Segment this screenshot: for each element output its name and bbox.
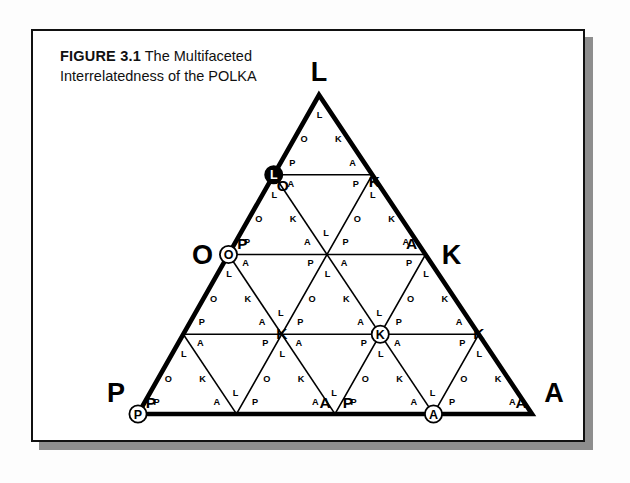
cell-letter-L: L xyxy=(325,269,331,279)
circled-marker-K[interactable]: K xyxy=(372,326,389,343)
emphasis-letter-A: A xyxy=(406,235,417,252)
cell-letter-K: K xyxy=(442,294,449,304)
cell-letter-O: O xyxy=(263,374,270,384)
figure-card: FIGURE 3.1 The Multifaceted Interrelated… xyxy=(31,29,585,442)
polka-triangle-diagram: LPAOKLPAOKLPAOKLPAOKLPAOKLPAOKLPAOKLPAOK… xyxy=(33,31,587,444)
cell-letter-L: L xyxy=(423,269,429,279)
cell-letter-P: P xyxy=(262,338,268,348)
cell-letter-K: K xyxy=(290,214,297,224)
grid-left-diagonal xyxy=(434,334,479,414)
cell-letter-L: L xyxy=(226,269,232,279)
triangle-svg: LPAOKLPAOKLPAOKLPAOKLPAOKLPAOKLPAOKLPAOK… xyxy=(33,31,587,444)
cell-letter-K: K xyxy=(495,374,502,384)
cell-letter-P: P xyxy=(289,158,295,168)
circled-marker-O[interactable]: O xyxy=(220,246,237,263)
emphasis-letter-P: P xyxy=(237,235,247,252)
emphasis-letter-K: K xyxy=(473,325,485,342)
corner-label-L: L xyxy=(311,57,328,87)
marker-letter: O xyxy=(224,248,234,262)
cell-letter-A: A xyxy=(456,317,463,327)
cell-letter-O: O xyxy=(354,214,361,224)
cell-letter-L: L xyxy=(233,388,239,398)
cell-letter-L: L xyxy=(278,308,284,318)
emphasis-letter-A: A xyxy=(515,394,526,411)
cell-letter-P: P xyxy=(308,258,314,268)
cell-letter-L: L xyxy=(378,349,384,359)
cell-letter-A: A xyxy=(312,397,319,407)
cell-letter-K: K xyxy=(343,294,350,304)
cell-letter-A: A xyxy=(394,338,401,348)
cell-letter-O: O xyxy=(460,374,467,384)
cell-letter-O: O xyxy=(255,214,262,224)
cell-letter-A: A xyxy=(411,397,418,407)
cell-letter-K: K xyxy=(199,374,206,384)
cell-letter-L: L xyxy=(430,388,436,398)
cell-letter-P: P xyxy=(396,317,402,327)
cell-letter-L: L xyxy=(323,228,329,238)
marker-letter: L xyxy=(270,168,278,182)
emphasis-letter-P: P xyxy=(343,394,353,411)
cell-letter-O: O xyxy=(407,294,414,304)
cell-letter-L: L xyxy=(377,308,383,318)
cell-letter-A: A xyxy=(357,317,364,327)
cell-letter-K: K xyxy=(298,374,305,384)
cell-letter-A: A xyxy=(242,258,249,268)
cell-letter-L: L xyxy=(331,388,337,398)
emphasis-letter-P: P xyxy=(146,394,156,411)
cell-letter-P: P xyxy=(361,338,367,348)
cell-letter-P: P xyxy=(406,258,412,268)
corner-label-P: P xyxy=(107,378,125,408)
cell-letter-K: K xyxy=(388,214,395,224)
cell-letter-A: A xyxy=(349,158,356,168)
page-background: FIGURE 3.1 The Multifaceted Interrelated… xyxy=(0,0,630,483)
cell-letter-L: L xyxy=(317,110,323,120)
emphasis-letter-K: K xyxy=(369,173,381,190)
marker-letter: P xyxy=(134,408,142,422)
cell-letter-A: A xyxy=(341,258,348,268)
marker-letter: A xyxy=(429,408,438,422)
cell-letter-L: L xyxy=(181,349,187,359)
corner-label-K: K xyxy=(442,240,462,270)
cell-letter-P: P xyxy=(297,317,303,327)
cell-letter-P: P xyxy=(343,237,349,247)
cell-letter-O: O xyxy=(308,294,315,304)
cell-letter-K: K xyxy=(335,134,342,144)
emphasis-letter-A: A xyxy=(319,394,330,411)
cell-letter-O: O xyxy=(210,294,217,304)
cell-letter-P: P xyxy=(449,397,455,407)
cell-letter-O: O xyxy=(165,374,172,384)
cell-letter-A: A xyxy=(197,338,204,348)
cell-letter-P: P xyxy=(353,179,359,189)
cell-letter-A: A xyxy=(214,397,221,407)
emphasis-letter-K: K xyxy=(276,325,288,342)
cell-letter-K: K xyxy=(245,294,252,304)
cell-letter-L: L xyxy=(370,190,376,200)
cell-letter-A: A xyxy=(304,237,311,247)
circled-marker-A[interactable]: A xyxy=(425,405,442,422)
cell-letter-A: A xyxy=(296,338,303,348)
marker-letter: K xyxy=(376,328,385,342)
corner-label-A: A xyxy=(544,378,564,408)
circled-marker-L[interactable]: L xyxy=(265,166,282,183)
cell-letter-P: P xyxy=(459,338,465,348)
cell-letter-L: L xyxy=(280,349,286,359)
cell-letter-K: K xyxy=(396,374,403,384)
circled-marker-P[interactable]: P xyxy=(129,405,146,422)
cell-letter-P: P xyxy=(252,397,258,407)
cell-letter-O: O xyxy=(362,374,369,384)
cell-letter-P: P xyxy=(199,317,205,327)
corner-label-O: O xyxy=(192,240,213,270)
grid-right-diagonal xyxy=(183,334,236,414)
cell-letter-A: A xyxy=(259,317,266,327)
cell-letter-O: O xyxy=(300,134,307,144)
cell-letter-L: L xyxy=(477,349,483,359)
